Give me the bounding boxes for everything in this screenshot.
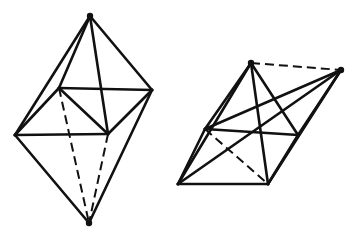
- polyhedron-vertex: [86, 220, 92, 226]
- polyhedron-vertex: [106, 132, 109, 135]
- polyhedron-vertex: [87, 13, 93, 19]
- polyhedron-edge: [15, 134, 108, 135]
- polyhedron-vertex: [176, 182, 179, 185]
- polyhedron-vertex: [150, 88, 153, 91]
- polyhedron-vertex: [57, 86, 60, 89]
- polyhedron-vertex: [248, 60, 254, 66]
- polyhedron-vertex: [296, 133, 299, 136]
- polyhedron-vertex: [203, 127, 206, 130]
- polyhedron-vertex: [338, 67, 344, 73]
- polyhedron-vertex: [266, 182, 269, 185]
- crystal-polyhedra-figure: [0, 0, 357, 246]
- figure-container: [0, 0, 357, 246]
- figure-background: [0, 0, 357, 246]
- polyhedron-vertex: [13, 133, 16, 136]
